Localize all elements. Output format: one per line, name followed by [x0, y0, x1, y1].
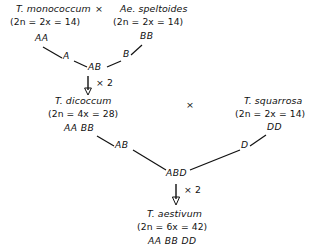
ploidy-label-t-squarrosa: (2n = 2x = 14)	[235, 109, 305, 119]
line-d-to-abd	[190, 150, 240, 170]
cross-symbol-first: ×	[95, 4, 103, 14]
genome-label-dd: DD	[267, 122, 282, 132]
ploidy-label-t-monococcum: (2n = 2x = 14)	[10, 17, 80, 27]
line-b-to-ab	[107, 61, 121, 67]
line-bb-to-b	[131, 45, 142, 55]
doubling-label-2: × 2	[184, 185, 201, 195]
arrow-doubling-2-head	[172, 197, 179, 205]
doubling-label-1: × 2	[96, 78, 113, 88]
species-label-ae-speltoides: Ae. speltoides	[120, 4, 187, 14]
genome-label-bb: BB	[140, 31, 153, 41]
gamete-label-d: D	[241, 140, 248, 150]
line-aabb-to-ab2	[97, 136, 114, 146]
ploidy-label-t-dicoccum: (2n = 4x = 28)	[48, 109, 118, 119]
species-label-t-monococcum: T. monococcum	[16, 4, 91, 14]
arrow-doubling-1-head	[85, 88, 92, 95]
line-aa-to-a	[43, 47, 62, 58]
line-a-to-ab	[74, 61, 87, 67]
ploidy-label-t-aestivum: (2n = 6x = 42)	[137, 222, 207, 232]
species-label-t-squarrosa: T. squarrosa	[244, 96, 302, 106]
line-ab2-to-abd	[133, 150, 166, 170]
species-label-t-aestivum: T. aestivum	[147, 209, 202, 219]
ploidy-label-ae-speltoides: (2n = 2x = 14)	[113, 17, 183, 27]
genome-label-aabbdd: AA BB DD	[148, 236, 196, 246]
line-dd-to-d	[250, 135, 266, 146]
wheat-polyploidy-diagram: T. monococcum (2n = 2x = 14) AA × Ae. sp…	[0, 0, 325, 252]
gamete-label-a: A	[63, 51, 70, 61]
hybrid-label-ab: AB	[88, 62, 101, 72]
gamete-label-b: B	[123, 49, 130, 59]
hybrid-label-abd: ABD	[166, 168, 187, 178]
genome-label-aabb: AA BB	[64, 123, 94, 133]
genome-label-aa: AA	[35, 33, 48, 43]
cross-symbol-second: ×	[186, 100, 194, 110]
species-label-t-dicoccum: T. dicoccum	[55, 96, 112, 106]
gamete-label-ab: AB	[115, 140, 128, 150]
